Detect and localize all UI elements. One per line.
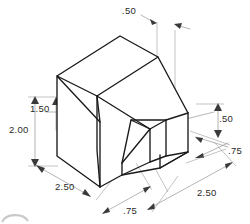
dimension-label-bottom-right-depth: 2.50 (197, 187, 217, 198)
corner-arc-artifact (2, 215, 28, 222)
arrowhead-right-base-a (195, 137, 203, 143)
isometric-solid (57, 36, 188, 187)
arrowhead-top-left (150, 19, 157, 25)
extension-line-bottom-right-left (152, 176, 178, 212)
dimension-label-top-width: .50 (122, 5, 136, 16)
technical-drawing-canvas: .50 1.50 2.00 .50 .75 2.50 .75 2.50 (0, 0, 250, 224)
dimension-label-bottom-slot-width: .75 (123, 205, 137, 216)
arrowhead-right-step-bottom (214, 130, 222, 138)
extension-line-right-base-bottom (186, 149, 226, 163)
dimension-label-bottom-left-length: 2.50 (55, 181, 75, 192)
dimension-label-left-upper-height: 1.50 (30, 103, 50, 114)
arrowhead-bottom-right-start (147, 203, 155, 210)
dimension-label-right-base-height: .75 (228, 145, 242, 156)
extension-line-bottom-slot-right (156, 170, 168, 192)
base-bottom-front-edge (122, 168, 160, 175)
arrowhead-bottom-right-end (225, 162, 233, 169)
arrowhead-bottom-slot-end (143, 186, 151, 193)
dimension-label-right-step-height: .50 (219, 113, 233, 124)
leader-right-step (186, 112, 214, 119)
arrowhead-bottom-left-end (82, 189, 91, 197)
arrowhead-bottom-slot-start (102, 207, 110, 214)
dimension-label-left-total-height: 2.00 (9, 124, 29, 135)
arrowhead-top-right (174, 23, 182, 29)
dimension-line-bottom-right (148, 163, 232, 209)
